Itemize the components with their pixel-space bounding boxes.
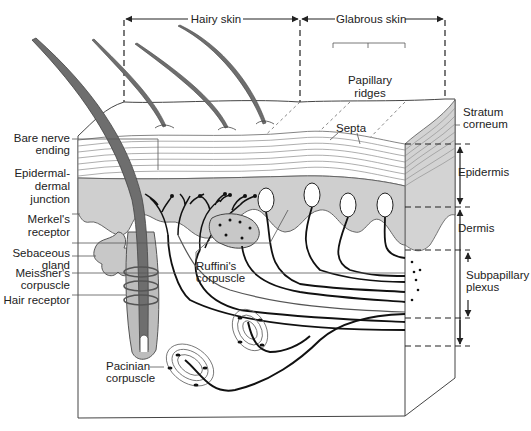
label-hairy-skin: Hairy skin [189,13,243,26]
label-merkel-line2: receptor [0,226,70,239]
skin-diagram [0,0,531,431]
pacinian-corpuscles [158,303,274,395]
right-face-layers [405,100,455,251]
label-epidermis: Epidermis [458,166,509,179]
label-septa: Septa [336,122,366,135]
label-bare-nerve-line2: ending [0,144,70,157]
label-papillary-ridges-line2: ridges [340,87,400,100]
label-glabrous-skin: Glabrous skin [336,13,406,26]
label-subpapillary-line2: plexus [466,281,499,294]
hairs [92,25,266,128]
label-epidermal-junction-line3: junction [0,193,70,206]
label-epidermal-junction-line1: Epidermal- [0,167,70,180]
label-meissner-line2: corpuscle [0,279,70,292]
label-ruffini-line2: corpuscle [196,272,245,285]
label-stratum-corneum-line2: corneum [463,118,508,131]
label-pacinian-line2: corpuscle [106,372,155,385]
label-dermis: Dermis [458,222,494,235]
hair-skin-dimples [155,121,274,130]
label-epidermal-junction-line2: dermal [0,180,70,193]
subpapillary-dots [411,261,422,302]
label-papillary-ridges-line1: Papillary [340,74,400,87]
hair-bulb-papilla [140,335,148,352]
label-hair-receptor: Hair receptor [0,294,70,307]
label-merkel-line1: Merkel's [0,213,70,226]
